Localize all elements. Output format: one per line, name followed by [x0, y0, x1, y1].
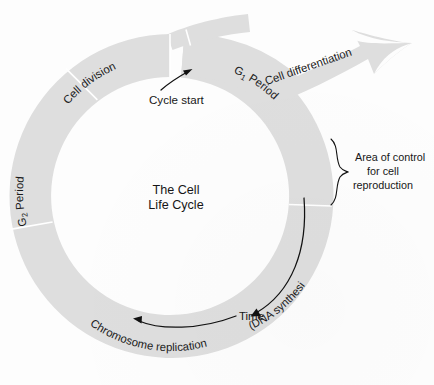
area-of-control-line-1: Area of control [355, 151, 425, 163]
figure-canvas: Cell division G1 Period G2 Period Chromo… [0, 0, 434, 385]
center-title-line-1: The Cell [153, 183, 200, 197]
area-of-control-line-2: for cell [367, 165, 399, 177]
cycle-start-label: Cycle start [149, 93, 205, 106]
center-title: The Cell Life Cycle [148, 183, 203, 212]
area-of-control-annotation: Area of control for cell reproduction [331, 139, 425, 205]
cell-life-cycle-diagram: Cell division G1 Period G2 Period Chromo… [0, 0, 434, 385]
time-label: Time [239, 310, 264, 322]
area-of-control-line-3: reproduction [353, 179, 413, 191]
center-title-line-2: Life Cycle [148, 198, 203, 212]
cycle-ring [9, 14, 412, 358]
curly-brace-icon [331, 139, 348, 205]
